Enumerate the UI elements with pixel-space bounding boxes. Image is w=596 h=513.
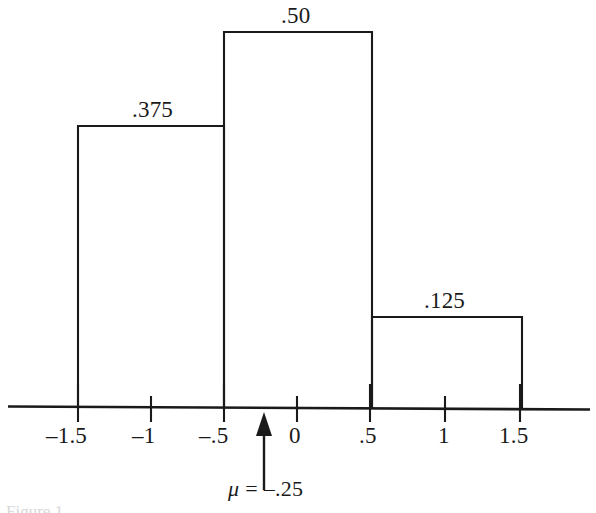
mean-value-text: = –.25 [239,476,303,501]
mean-annotation-label: μ = –.25 [228,478,303,500]
bar-375-outline [78,126,224,408]
mean-arrow-head [256,412,272,436]
tick-label-0: 0 [289,424,301,447]
tick-label-1.5: 1.5 [499,424,528,447]
bar-value-label-50: .50 [281,4,310,27]
mean-symbol: μ [228,476,239,501]
tick-label-1: 1 [438,424,450,447]
histogram-figure: .375 .50 .125 –1.5 –1 –.5 0 .5 1 1.5 μ =… [0,0,596,513]
tick-label-0.5: .5 [359,424,377,447]
bar-50-outline [224,32,372,408]
figure-caption-partial: Figure 1 [6,502,63,513]
tick-label--1.5: –1.5 [46,424,87,447]
x-axis-ticks [78,384,520,422]
x-axis-line [8,407,590,410]
bar-group [78,32,522,408]
bar-value-label-375-render: .375 [132,98,173,121]
tick-label--0.5: –.5 [199,424,228,447]
bar-value-label-125: .125 [424,289,465,312]
tick-label--1: –1 [132,424,155,447]
bar-125-outline [372,317,522,408]
